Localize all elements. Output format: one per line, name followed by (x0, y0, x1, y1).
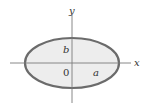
y-axis-label: y (68, 5, 75, 16)
x-axis-label: x (134, 57, 140, 68)
origin-label: 0 (63, 67, 69, 78)
ellipse-diagram: y x b 0 a (0, 0, 147, 106)
diagram-canvas: y x b 0 a (0, 0, 147, 106)
semi-major-label: a (93, 67, 99, 78)
semi-minor-label: b (63, 44, 69, 55)
